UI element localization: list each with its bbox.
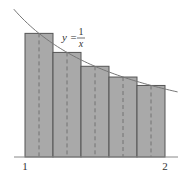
- function-label: y = 1 x: [61, 26, 85, 49]
- function-label-lhs: y =: [61, 31, 77, 43]
- x-tick-2: 2: [162, 160, 168, 172]
- rectangle: [109, 77, 137, 157]
- function-label-denominator: x: [78, 38, 84, 49]
- x-tick-1: 1: [22, 160, 28, 172]
- riemann-sum-diagram: y = 1 x 1 2: [0, 0, 190, 181]
- function-label-numerator: 1: [79, 26, 84, 37]
